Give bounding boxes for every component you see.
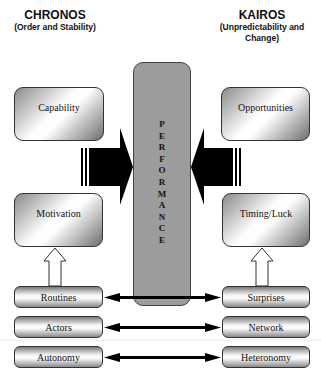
left-block-arrow-icon — [81, 128, 133, 205]
diagram-arrows — [0, 0, 321, 377]
double-arrow-icons — [104, 293, 221, 362]
right-hollow-up-arrow-icon — [251, 248, 273, 286]
right-block-arrow-icon — [191, 128, 241, 205]
left-hollow-up-arrow-icon — [44, 248, 66, 286]
